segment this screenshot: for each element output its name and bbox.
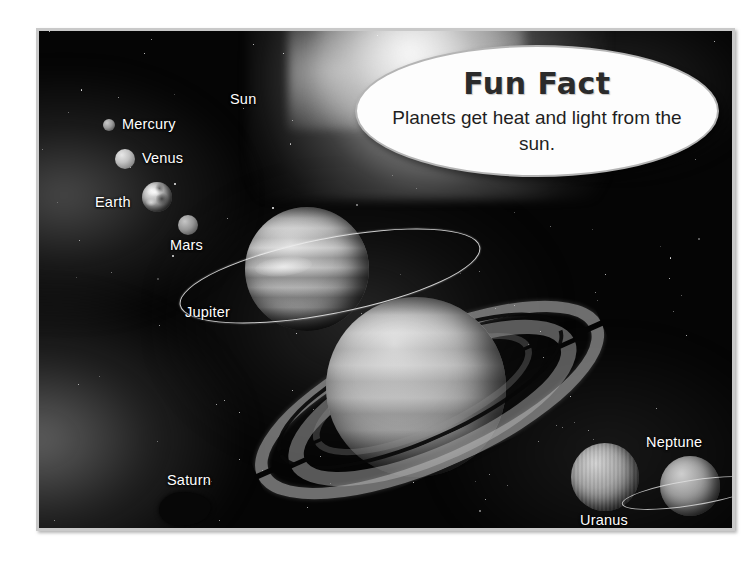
star — [416, 188, 417, 189]
star — [111, 272, 112, 273]
star — [42, 149, 43, 150]
star — [227, 218, 228, 219]
star — [698, 238, 700, 240]
star — [79, 240, 80, 241]
star — [550, 226, 551, 227]
star — [479, 510, 481, 512]
star — [543, 357, 544, 358]
star — [673, 311, 674, 312]
star — [475, 481, 476, 482]
star — [159, 325, 160, 326]
star — [290, 143, 292, 145]
star — [570, 396, 571, 397]
star — [157, 278, 159, 280]
star — [239, 459, 240, 460]
star — [157, 441, 158, 442]
star — [292, 120, 293, 121]
star — [507, 485, 508, 486]
label-mercury: Mercury — [122, 116, 176, 132]
star — [243, 108, 244, 109]
fun-fact-title: Fun Fact — [463, 66, 610, 101]
star — [216, 404, 217, 405]
planet-earth — [142, 182, 172, 212]
star — [686, 335, 687, 336]
star — [172, 255, 174, 257]
label-neptune: Neptune — [646, 434, 702, 450]
nebula-glow-lower-left — [39, 289, 247, 528]
star — [219, 520, 220, 521]
star — [605, 274, 606, 275]
star — [54, 520, 55, 521]
star — [681, 295, 682, 296]
star — [538, 441, 539, 442]
star — [76, 277, 77, 278]
label-sun: Sun — [230, 91, 256, 107]
star — [296, 333, 297, 334]
star — [495, 308, 497, 310]
star — [130, 167, 131, 168]
planet-mercury — [103, 119, 115, 131]
star — [556, 425, 557, 426]
space-scene: SunMercuryVenusEarthMarsJupiterSaturnUra… — [39, 31, 732, 528]
star — [262, 470, 263, 471]
star — [151, 39, 152, 40]
label-uranus: Uranus — [580, 512, 628, 528]
star — [307, 507, 308, 508]
star — [292, 390, 293, 391]
star — [695, 159, 696, 160]
asteroid-silhouette — [159, 492, 211, 526]
poster-frame: SunMercuryVenusEarthMarsJupiterSaturnUra… — [36, 28, 735, 531]
star — [377, 35, 378, 36]
star — [540, 331, 541, 332]
star — [49, 31, 50, 32]
star — [714, 41, 715, 42]
label-saturn: Saturn — [167, 472, 211, 488]
star — [413, 482, 414, 483]
star — [224, 400, 225, 401]
star — [330, 483, 331, 484]
planet-uranus — [571, 443, 639, 511]
star — [660, 246, 661, 247]
star — [174, 183, 176, 185]
star — [460, 273, 461, 274]
planet-venus — [115, 149, 135, 169]
star — [528, 344, 529, 345]
label-mars: Mars — [170, 237, 203, 253]
star — [514, 212, 515, 213]
star — [211, 481, 212, 482]
star — [514, 305, 515, 306]
star — [253, 44, 254, 45]
star — [592, 229, 593, 230]
planet-saturn — [326, 297, 506, 477]
star — [57, 202, 58, 203]
page-root: SunMercuryVenusEarthMarsJupiterSaturnUra… — [0, 0, 753, 566]
star — [588, 430, 590, 432]
star — [283, 53, 284, 54]
star — [320, 456, 321, 457]
fun-fact-callout: Fun Fact Planets get heat and light from… — [355, 45, 719, 177]
star — [670, 257, 672, 259]
star — [272, 207, 274, 209]
star — [144, 53, 145, 54]
star — [81, 89, 83, 91]
label-earth: Earth — [95, 194, 131, 210]
label-venus: Venus — [142, 150, 183, 166]
star — [400, 274, 402, 276]
planet-jupiter — [245, 207, 369, 331]
star — [485, 499, 486, 500]
star — [392, 175, 393, 176]
star — [174, 94, 175, 95]
planet-neptune — [660, 456, 720, 516]
label-jupiter: Jupiter — [185, 304, 230, 320]
star — [562, 427, 563, 428]
star — [574, 422, 575, 423]
star — [313, 409, 314, 410]
star — [597, 300, 598, 301]
star — [669, 278, 671, 280]
fun-fact-body: Planets get heat and light from the sun. — [387, 105, 687, 155]
star — [479, 271, 480, 272]
star — [118, 97, 119, 98]
star — [356, 204, 358, 206]
star — [595, 292, 596, 293]
star — [99, 376, 100, 377]
